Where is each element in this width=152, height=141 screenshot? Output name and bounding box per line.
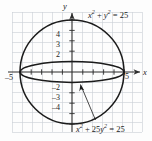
x-tick-label-5: 5 — [125, 73, 129, 81]
y-tick-label-minus-3: –3 — [52, 94, 60, 102]
y-tick-label-minus-4: –4 — [52, 104, 60, 112]
equation-label-circle: x2 + y2 = 25 — [88, 9, 128, 19]
y-tick-label-2: 2 — [56, 51, 60, 59]
y-axis-label: y — [63, 2, 67, 11]
x-axis-label: x — [143, 68, 147, 77]
x-tick-label-minus-5: –5 — [5, 74, 13, 82]
y-tick-label-4: 4 — [56, 31, 60, 39]
graph-canvas — [0, 0, 152, 141]
x-axis — [8, 69, 140, 74]
equation-label-ellipse: x2 + 25y2 = 25 — [76, 123, 125, 133]
y-tick-label-3: 3 — [56, 41, 60, 49]
y-tick-label-minus-2: –2 — [52, 84, 60, 92]
graph-figure: x2 + y2 = 25 x2 + 25y2 = 25 y x 4 3 2 –2… — [0, 0, 152, 141]
